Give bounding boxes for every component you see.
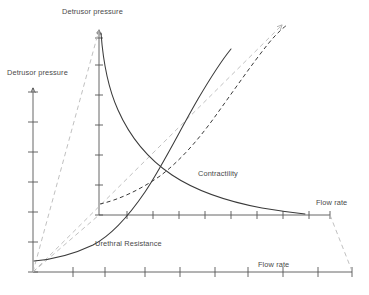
inner-axes — [95, 30, 330, 219]
urethral-resistance-curve — [34, 49, 231, 261]
diagram-canvas — [0, 0, 369, 295]
projection-lines — [33, 25, 352, 272]
contractility-curve — [101, 33, 305, 214]
label-contractility: Contractility — [198, 170, 238, 177]
label-top-detrusor-pressure: Detrusor pressure — [62, 8, 123, 15]
label-urethral-resistance: Urethral Resistance — [95, 240, 162, 247]
projection-line-to-inner-top — [33, 30, 99, 272]
projection-line-to-inner-origin — [33, 215, 99, 272]
projection-companion-curve — [100, 25, 287, 204]
label-inner-flow-rate: Flow rate — [316, 199, 347, 206]
label-left-detrusor-pressure: Detrusor pressure — [7, 69, 68, 76]
outer-axes — [28, 88, 352, 277]
label-outer-flow-rate: Flow rate — [258, 261, 289, 268]
urodynamics-diagram: Detrusor pressure Detrusor pressure Flow… — [0, 0, 369, 295]
projection-line-to-outer-right — [330, 215, 352, 271]
projection-line-to-upper-right — [33, 25, 282, 272]
